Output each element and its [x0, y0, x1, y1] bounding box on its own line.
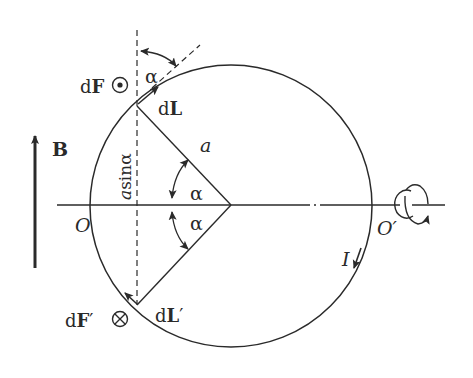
label-angle-lower: α [190, 212, 203, 234]
angle-arc-lower-icon [172, 212, 188, 249]
label-element-top: dL [158, 98, 183, 119]
label-axis-left: O [75, 214, 91, 236]
radius-upper [137, 106, 231, 205]
label-angle-upper: α [190, 182, 203, 204]
label-lever-arm: asinα [115, 153, 135, 200]
dashed-tangent-line [152, 45, 200, 88]
label-force-top: dF [80, 76, 105, 97]
out-of-page-icon [113, 78, 128, 93]
angle-arc-upper-icon [172, 160, 188, 198]
label-angle-top: α [145, 65, 158, 87]
label-field: B [52, 138, 68, 160]
radius-lower [137, 205, 231, 305]
label-element-bottom: dL′ [155, 305, 183, 326]
label-force-bottom: dF′ [65, 310, 93, 331]
label-force-top-f: F [92, 76, 105, 97]
dl-prime-arrow-icon [125, 293, 137, 304]
angle-arc-top-icon [141, 51, 176, 66]
into-page-icon [113, 312, 128, 327]
loop-diagram: dF dL α a α α B O O′ I dF′ dL′ asinα [0, 0, 473, 378]
label-axis-right: O′ [377, 217, 398, 239]
dl-arrow-icon [138, 87, 158, 104]
current-arrow-icon [354, 248, 361, 268]
label-current: I [341, 248, 350, 270]
label-radius: a [200, 134, 211, 156]
